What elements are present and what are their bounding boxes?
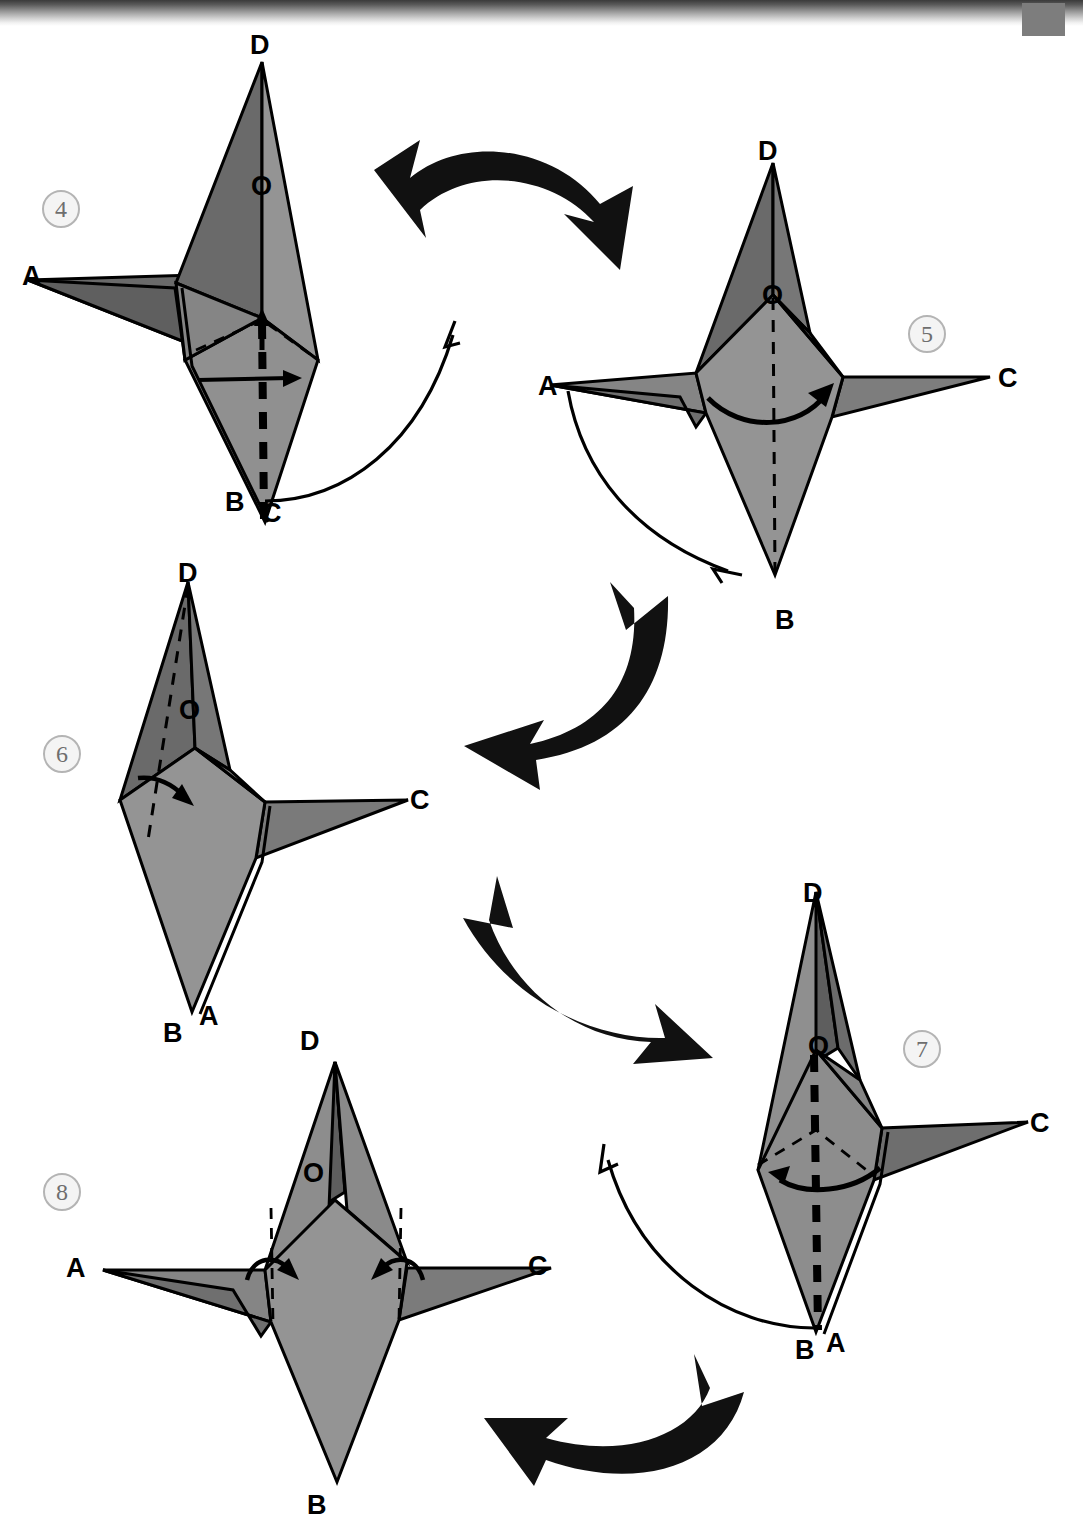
step7-label-C: C	[1030, 1110, 1050, 1137]
step4-label-D: D	[250, 32, 270, 59]
step5-flip-arrow	[560, 385, 770, 585]
step8-label-O: O	[303, 1160, 324, 1187]
step6-label-C: C	[410, 787, 430, 814]
step8-label-D: D	[300, 1028, 320, 1055]
step4-label-B: B	[225, 489, 245, 516]
step-badge-7: 7	[903, 1030, 941, 1068]
step4-label-A: A	[22, 263, 42, 290]
arrow-step7-to-step8	[472, 1330, 752, 1495]
arrow-step6-to-step7	[455, 862, 720, 1067]
step7-label-O: O	[808, 1033, 829, 1060]
step6-label-A: A	[199, 1003, 219, 1030]
scan-corner-mark	[1022, 3, 1065, 36]
scan-shadow-band	[0, 0, 1083, 26]
step5-label-B: B	[775, 607, 795, 634]
step8-label-A: A	[66, 1255, 86, 1282]
step-badge-4: 4	[42, 190, 80, 228]
step7-label-A: A	[826, 1330, 846, 1357]
step4-label-O: O	[251, 173, 272, 200]
step5-label-A: A	[538, 373, 558, 400]
step6-label-D: D	[178, 560, 198, 587]
origami-diagram-page: D O A B C 4 D	[0, 0, 1083, 1538]
step7-label-D: D	[803, 880, 823, 907]
step5-label-O: O	[762, 282, 783, 309]
arrow-step5-to-step6	[458, 568, 718, 798]
step6-label-O: O	[179, 697, 200, 724]
step8-label-C: C	[528, 1253, 548, 1280]
step-badge-5: 5	[908, 315, 946, 353]
step7-flip-arrow	[592, 1132, 822, 1342]
step8-label-B: B	[307, 1492, 327, 1519]
step4-flip-arrow	[255, 305, 485, 515]
step5-label-C: C	[998, 365, 1018, 392]
step-badge-8: 8	[43, 1173, 81, 1211]
step-badge-6: 6	[43, 735, 81, 773]
step5-label-D: D	[758, 138, 778, 165]
